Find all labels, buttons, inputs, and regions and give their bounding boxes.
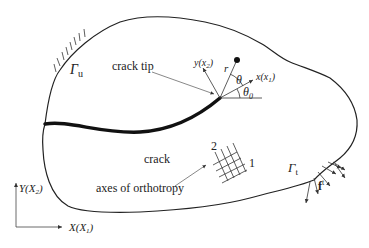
crack-diagram: Γu crack tip crack axes of orthotropy 2 …: [0, 0, 369, 248]
crack-line: [45, 98, 220, 132]
global-X-label: X(X1): [68, 221, 94, 235]
traction-label: ft: [318, 178, 325, 193]
r-label: r: [224, 62, 229, 74]
field-point: [234, 57, 240, 63]
crack-tip-leader: [152, 72, 214, 94]
crack-tip-label: crack tip: [112, 59, 154, 73]
axes-of-orthotropy-label: axes of orthotropy: [96, 181, 184, 195]
orthotropy-grid: [213, 143, 247, 183]
ortho-axis-2-label: 2: [211, 139, 217, 153]
ortho-axis-1-label: 1: [249, 156, 255, 170]
theta-label: θ: [236, 73, 242, 87]
theta0-label: θ0: [243, 85, 253, 101]
traction-arrows: [306, 162, 345, 203]
global-Y-label: Y(X2): [19, 182, 43, 196]
crack-label: crack: [144, 152, 170, 166]
local-x-label: x(x1): [255, 71, 276, 84]
gamma-u-label: Γu: [69, 62, 83, 79]
gamma-t-label: Γt: [287, 160, 298, 177]
